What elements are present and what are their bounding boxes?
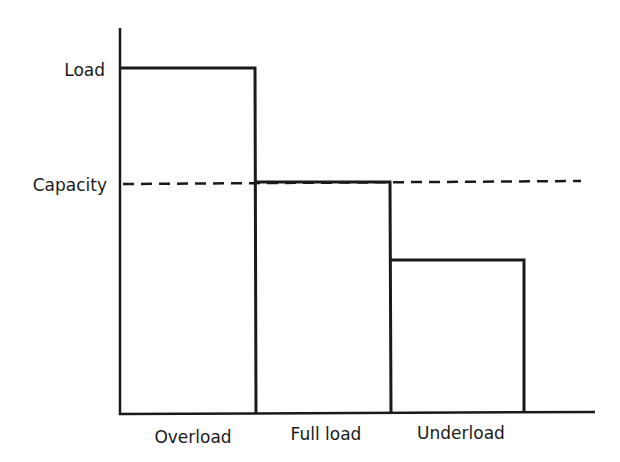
y-label-capacity: Capacity: [33, 175, 107, 195]
x-label-underload: Underload: [417, 423, 505, 443]
x-label-overload: Overload: [154, 427, 231, 447]
bar-overload: [120, 68, 256, 414]
bar-underload: [391, 260, 524, 412]
y-label-load: Load: [64, 60, 105, 80]
x-axis: [119, 412, 595, 414]
x-label-full-load: Full load: [291, 424, 362, 444]
load-capacity-diagram: Load Capacity Overload Full load Underlo…: [0, 0, 620, 462]
bar-full-load: [256, 182, 391, 413]
